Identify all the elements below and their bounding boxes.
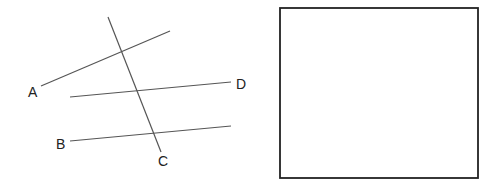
label-c: C [158, 153, 168, 169]
line-b [70, 126, 231, 141]
label-b: B [56, 136, 65, 152]
transversal-c [108, 17, 161, 152]
line-d [70, 82, 231, 97]
answer-box [280, 8, 478, 178]
diagram-canvas: A D B C [0, 0, 495, 187]
label-a: A [28, 84, 38, 100]
line-a [41, 31, 170, 86]
label-d: D [236, 76, 246, 92]
